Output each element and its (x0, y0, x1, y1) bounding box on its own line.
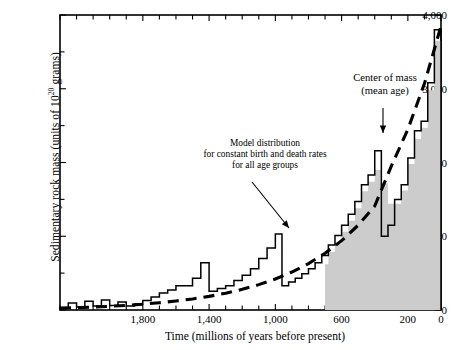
model-distribution-annotation-arrowhead (282, 220, 289, 228)
plot-canvas (0, 0, 451, 350)
center-of-mass-annotation-arrowhead (380, 126, 386, 134)
chart-root: Sedimentary rock mass (units of 1020 gra… (0, 0, 451, 350)
model-distribution-annotation-arrow-line (252, 182, 289, 228)
